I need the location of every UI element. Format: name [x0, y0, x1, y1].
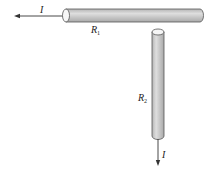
rod-r1 — [63, 9, 204, 22]
rod-r2-end-cap — [152, 29, 164, 35]
rod-diagram: I R1 R2 I — [0, 0, 214, 179]
current-arrow-left — [14, 14, 64, 18]
rod-r1-end-cap — [63, 9, 70, 22]
rod-r2-label: R2 — [137, 92, 147, 104]
current-label-left: I — [39, 4, 44, 15]
current-label-down: I — [161, 149, 166, 160]
rod-r1-label: R1 — [90, 24, 100, 36]
rod-r2 — [152, 29, 164, 140]
current-arrow-down — [156, 139, 160, 166]
